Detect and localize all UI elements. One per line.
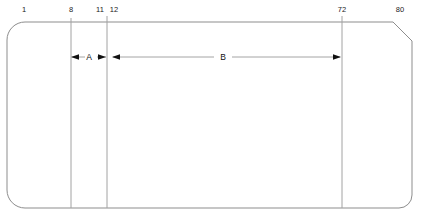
dimension-b-arrow-left [112, 54, 120, 60]
dimension-a-arrow-right [98, 54, 106, 60]
diagram-svg: 1 8 11 12 72 80 A B [0, 0, 423, 218]
dimension-b-group: B [112, 52, 341, 62]
station-label-8: 8 [69, 5, 73, 14]
diagram-canvas: 1 8 11 12 72 80 A B [0, 0, 423, 218]
station-label-12: 12 [110, 5, 118, 14]
station-label-72: 72 [338, 5, 346, 14]
station-label-80: 80 [396, 5, 404, 14]
panel-outline [7, 22, 412, 208]
dimension-b-label: B [220, 52, 226, 62]
dimension-a-arrow-left [71, 54, 79, 60]
dimension-a-label: A [86, 52, 92, 62]
station-label-1: 1 [22, 5, 26, 14]
station-label-11: 11 [96, 5, 104, 14]
dimension-b-arrow-right [333, 54, 341, 60]
dimension-a-group: A [71, 52, 106, 62]
